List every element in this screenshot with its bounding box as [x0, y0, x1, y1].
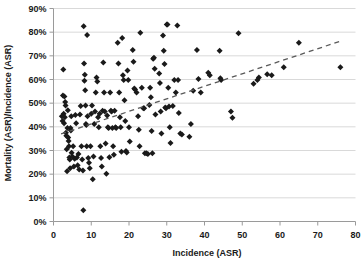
data-point	[296, 40, 302, 46]
data-point	[131, 59, 137, 65]
data-point	[125, 77, 131, 83]
data-point	[165, 22, 171, 28]
x-axis-title: Incidence (ASR)	[172, 248, 241, 258]
data-point	[115, 40, 121, 46]
data-point	[124, 68, 130, 74]
data-point	[60, 67, 66, 73]
data-point	[235, 30, 241, 36]
data-point	[86, 160, 92, 166]
trendline	[61, 41, 340, 134]
x-tick-label: 0	[51, 230, 56, 240]
data-point	[269, 72, 275, 78]
data-point	[156, 71, 162, 77]
data-point	[91, 153, 97, 159]
data-point	[157, 80, 163, 86]
data-point	[175, 77, 181, 83]
data-point	[158, 108, 164, 114]
x-tick-label: 60	[275, 230, 285, 240]
data-point	[167, 124, 173, 130]
data-point	[137, 143, 143, 149]
y-tick-label: 60%	[28, 75, 46, 85]
x-tick-label: 20	[124, 230, 134, 240]
data-point	[135, 113, 141, 119]
data-point	[87, 143, 93, 149]
data-point	[84, 32, 90, 38]
data-point	[281, 64, 287, 70]
data-point	[121, 97, 127, 103]
data-point	[81, 78, 87, 84]
y-tick-label: 90%	[28, 4, 46, 14]
data-point	[228, 108, 234, 114]
data-point	[126, 124, 132, 130]
data-point	[81, 23, 87, 29]
data-point	[130, 47, 136, 53]
data-point	[120, 72, 126, 78]
data-point	[117, 114, 123, 120]
data-point	[110, 143, 116, 149]
y-tick-label: 80%	[28, 27, 46, 37]
tick-marks	[50, 9, 356, 226]
data-point	[141, 105, 147, 111]
y-tick-label: 20%	[28, 169, 46, 179]
y-tick-label: 30%	[28, 146, 46, 156]
data-point	[161, 48, 167, 54]
x-tick-label: 30	[162, 230, 172, 240]
data-point	[137, 30, 143, 36]
data-point	[165, 85, 171, 91]
x-tick-label: 70	[313, 230, 323, 240]
data-point	[77, 112, 83, 118]
trendline-path	[61, 41, 340, 134]
data-point	[161, 61, 167, 67]
data-point	[251, 81, 257, 87]
data-point	[85, 155, 91, 161]
data-point	[152, 66, 158, 72]
y-axis-title: Mortality (ASR)/Incidence (ASR)	[3, 45, 13, 182]
data-point	[139, 85, 145, 91]
data-point	[176, 110, 182, 116]
data-point	[118, 124, 124, 130]
data-point	[116, 90, 122, 96]
data-point	[73, 120, 79, 126]
data-point	[122, 118, 128, 124]
y-tick-label: 10%	[28, 193, 46, 203]
data-point	[96, 124, 102, 130]
data-point	[186, 134, 192, 140]
data-point	[97, 143, 103, 149]
y-axis-tick-labels: 0%10%20%30%40%50%60%70%80%90%	[28, 4, 46, 227]
data-point	[136, 127, 142, 133]
data-point	[147, 85, 153, 91]
y-tick-label: 70%	[28, 51, 46, 61]
gridlines	[54, 9, 356, 198]
x-tick-label: 80	[350, 230, 360, 240]
data-point	[148, 94, 154, 100]
x-tick-label: 10	[86, 230, 96, 240]
data-point	[160, 32, 166, 38]
data-point	[115, 60, 121, 66]
data-point	[119, 35, 125, 41]
data-point	[107, 90, 113, 96]
data-point	[99, 164, 105, 170]
data-point	[87, 165, 93, 171]
data-point	[100, 59, 106, 65]
data-point	[82, 72, 88, 78]
data-point	[149, 128, 155, 134]
data-points	[59, 22, 344, 214]
data-point	[81, 60, 87, 66]
y-tick-label: 40%	[28, 122, 46, 132]
data-point	[78, 103, 84, 109]
x-tick-label: 40	[199, 230, 209, 240]
data-point	[194, 47, 200, 53]
data-point	[229, 115, 235, 121]
data-point	[195, 76, 201, 82]
data-point	[264, 71, 270, 77]
data-point	[198, 90, 204, 96]
data-point	[217, 48, 223, 54]
x-axis-tick-labels: 01020304050607080	[51, 230, 361, 240]
data-point	[168, 140, 174, 146]
data-point	[103, 171, 109, 177]
data-point	[173, 90, 179, 96]
data-point	[149, 150, 155, 156]
data-point	[78, 143, 84, 149]
data-point	[174, 23, 180, 29]
data-point	[82, 87, 88, 93]
